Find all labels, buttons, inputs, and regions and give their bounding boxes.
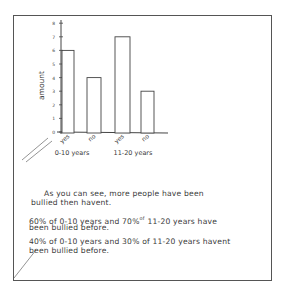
note-line-2: bullied then havent.	[31, 198, 111, 207]
group-label: 11-20 years	[114, 149, 153, 157]
pen-stroke-mark	[22, 138, 52, 162]
note-line-3b: 11-20 years have	[145, 217, 217, 226]
y-tick-label: 7	[52, 35, 55, 40]
y-axis-label: amount	[37, 71, 46, 100]
note-line-5: 40% of 0-10 years and 30% of 11-20 years…	[29, 237, 230, 246]
y-tick-label: 1	[52, 116, 55, 121]
x-tick-label: no	[86, 132, 96, 142]
x-tick-label: yes	[58, 132, 71, 145]
y-tick-label: 8	[52, 21, 55, 26]
y-tick-label: 4	[52, 76, 55, 81]
bar-no-3	[141, 91, 154, 133]
note-line-6: been bullied before.	[29, 246, 109, 255]
bar-no-1	[87, 78, 101, 133]
y-tick-label: 5	[52, 62, 55, 67]
bar-yes-0	[62, 50, 74, 133]
x-tick-label: yes	[113, 132, 126, 145]
y-tick-label: 2	[52, 103, 55, 108]
bar-yes-2	[115, 37, 130, 133]
bars	[62, 37, 154, 133]
note-line-4: been bullied before.	[29, 223, 109, 232]
group-label: 0-10 years	[55, 149, 90, 157]
y-tick-label: 6	[52, 48, 55, 53]
x-labels: yesnoyesno0-10 years11-20 years	[55, 132, 153, 157]
x-tick-label: no	[140, 132, 150, 142]
y-tick-label: 3	[52, 89, 55, 94]
y-tick-label: 0	[52, 130, 55, 135]
note-line-1: As you can see, more people have been	[44, 189, 204, 198]
